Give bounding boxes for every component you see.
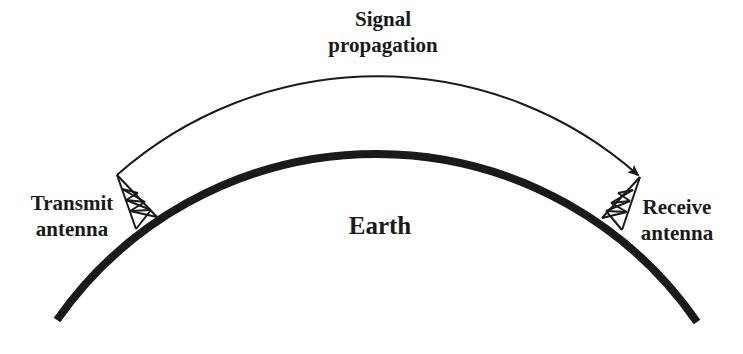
receive-antenna-label: Receive antenna bbox=[627, 194, 727, 247]
signal-propagation-diagram: Signal propagation Earth Transmit antenn… bbox=[0, 0, 743, 354]
signal-path-arrow bbox=[117, 76, 638, 175]
transmit-antenna-line2: antenna bbox=[22, 216, 122, 242]
transmit-antenna-label: Transmit antenna bbox=[22, 190, 122, 243]
receive-antenna-line1: Receive bbox=[627, 194, 727, 220]
signal-propagation-line2: propagation bbox=[318, 32, 448, 58]
signal-propagation-label: Signal propagation bbox=[318, 6, 448, 59]
signal-propagation-line1: Signal bbox=[318, 6, 448, 32]
receive-antenna-line2: antenna bbox=[627, 220, 727, 246]
transmit-antenna-line1: Transmit bbox=[22, 190, 122, 216]
earth-label: Earth bbox=[340, 210, 420, 241]
